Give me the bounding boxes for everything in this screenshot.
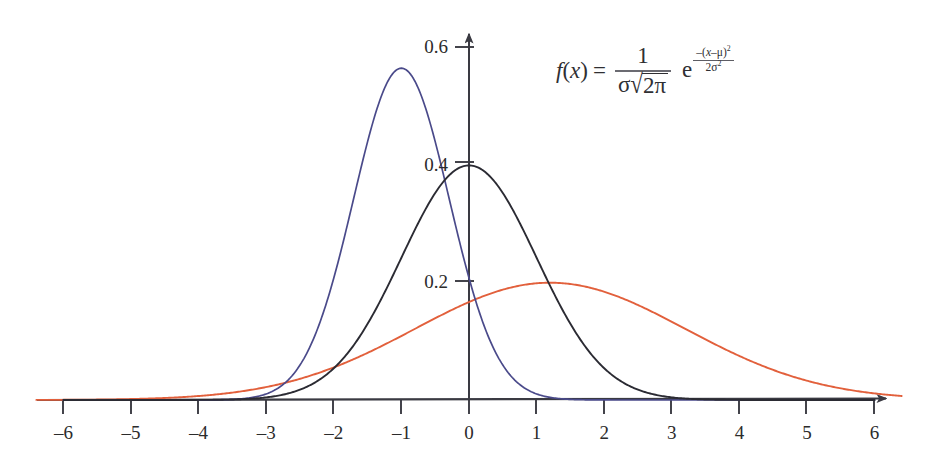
x-tick-label: 5	[802, 422, 812, 444]
x-tick-label: –2	[324, 422, 343, 444]
exp-num-prefix: –(	[696, 46, 706, 58]
radical-icon: √	[630, 71, 643, 101]
x-tick-label: –5	[122, 422, 141, 444]
chart-plot-area	[0, 0, 928, 468]
x-tick-label: 3	[667, 422, 677, 444]
formula-exponent-denominator: 2σ2	[703, 61, 725, 74]
formula-open-paren: (	[562, 58, 570, 84]
formula-denominator: σ√2π	[615, 72, 671, 99]
y-tick-label: 0.2	[404, 271, 448, 293]
formula-radicand-2pi: 2π	[642, 73, 668, 99]
formula-close-paren: )	[580, 58, 588, 84]
x-tick-label: –3	[257, 422, 276, 444]
exp-den-power: 2	[718, 60, 722, 69]
formula-variable-x: x	[570, 58, 580, 84]
x-tick-label: –1	[392, 422, 411, 444]
x-tick-label: 6	[870, 422, 880, 444]
exp-num-power: 2	[727, 44, 731, 53]
formula-numerator-one: 1	[631, 44, 655, 70]
y-tick-label: 0.4	[404, 154, 448, 176]
x-tick-label: –4	[189, 422, 208, 444]
x-axis-ticks	[63, 391, 874, 414]
x-tick-label: 0	[464, 422, 474, 444]
formula-exponential-term: e –(x–μ)2 2σ2	[682, 57, 734, 85]
y-axis-ticks	[455, 47, 474, 281]
formula-exponent-numerator: –(x–μ)2	[693, 46, 733, 59]
formula-sigma-symbol: σ	[618, 72, 630, 97]
formula-exponent-fraction: –(x–μ)2 2σ2	[693, 46, 733, 74]
formula-equals-sign: =	[593, 58, 606, 84]
x-tick-label: 1	[532, 422, 542, 444]
x-tick-label: 2	[599, 422, 609, 444]
normal-distribution-chart: –6–5–4–3–2–10123456 0.20.40.6 f(x) = 1 σ…	[0, 0, 928, 468]
formula-e-base: e	[682, 57, 692, 83]
y-tick-label: 0.6	[404, 36, 448, 58]
pdf-formula-annotation: f(x) = 1 σ√2π e –(x–μ)2 2σ2	[556, 44, 734, 99]
x-tick-label: 4	[735, 422, 745, 444]
formula-main-fraction: 1 σ√2π	[615, 44, 671, 99]
x-tick-label: –6	[54, 422, 73, 444]
formula-sqrt-group: √2π	[630, 73, 668, 99]
